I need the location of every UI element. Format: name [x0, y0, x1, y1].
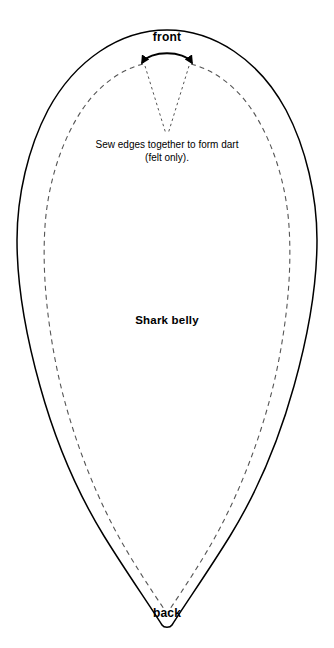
dart-instruction-note: Sew edges together to form dart (felt on… — [0, 138, 334, 164]
piece-name-label: Shark belly — [0, 313, 334, 327]
pattern-sheet: front Sew edges together to form dart (f… — [0, 0, 334, 648]
dart-note-line-2: (felt only). — [0, 151, 334, 164]
dart-note-line-1: Sew edges together to form dart — [0, 138, 334, 151]
back-label: back — [0, 606, 334, 621]
front-label: front — [0, 30, 334, 45]
cutting-line-outline — [17, 30, 317, 627]
